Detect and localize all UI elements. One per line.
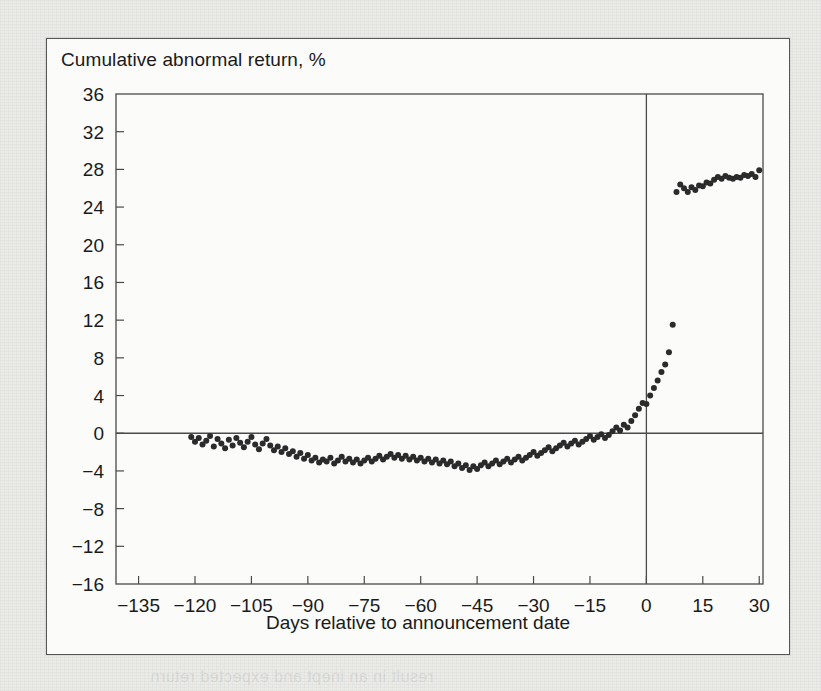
data-point — [666, 349, 672, 355]
data-point — [241, 444, 247, 450]
data-point — [260, 441, 266, 447]
data-point — [673, 189, 679, 195]
data-point — [617, 427, 623, 433]
data-point — [207, 433, 213, 439]
figure-panel: Cumulative abnormal return, % 3632282420… — [46, 38, 790, 655]
data-point — [256, 446, 262, 452]
data-point — [327, 455, 333, 461]
y-tick-label: 8 — [93, 348, 104, 369]
data-point — [692, 187, 698, 193]
data-point — [662, 361, 668, 367]
bleed-through-text-bottom: result in an inept and expected return — [150, 668, 433, 686]
x-axis-title: Days relative to announcement date — [47, 612, 789, 634]
data-point — [275, 443, 281, 449]
data-point — [263, 436, 269, 442]
data-point — [222, 445, 228, 451]
data-point — [203, 438, 209, 444]
data-point — [282, 445, 288, 451]
data-point — [230, 442, 236, 448]
data-point — [215, 436, 221, 442]
y-tick-label: 20 — [83, 235, 104, 256]
data-point — [312, 455, 318, 461]
data-point — [233, 435, 239, 441]
data-point — [237, 440, 243, 446]
data-point — [305, 452, 311, 458]
data-point — [245, 439, 251, 445]
data-point — [248, 434, 254, 440]
data-point — [226, 437, 232, 443]
data-point — [625, 425, 631, 431]
data-point — [756, 167, 762, 173]
data-point — [628, 418, 634, 424]
plot-svg: 36322824201612840−4−8−12−16−135−120−105−… — [47, 39, 791, 656]
data-point — [455, 460, 461, 466]
data-point — [267, 442, 273, 448]
data-point-group — [188, 167, 762, 473]
y-tick-label: 16 — [83, 272, 104, 293]
data-point — [651, 385, 657, 391]
y-tick-label: 4 — [93, 386, 104, 407]
data-point — [647, 393, 653, 399]
y-tick-label: 12 — [83, 310, 104, 331]
data-point — [339, 454, 345, 460]
data-point — [670, 322, 676, 328]
y-tick-label: 0 — [93, 423, 104, 444]
y-tick-label: 24 — [83, 197, 105, 218]
data-point — [636, 406, 642, 412]
data-point — [643, 401, 649, 407]
plot-frame — [116, 94, 763, 584]
y-tick-label: 28 — [83, 159, 104, 180]
y-tick-label: −12 — [72, 536, 104, 557]
data-point — [196, 435, 202, 441]
data-point — [658, 369, 664, 375]
y-tick-label: −16 — [72, 574, 104, 595]
data-point — [463, 462, 469, 468]
data-point — [448, 459, 454, 465]
data-point — [218, 441, 224, 447]
data-point — [655, 377, 661, 383]
data-point — [290, 448, 296, 454]
y-tick-label: 36 — [83, 84, 104, 105]
y-tick-label: −8 — [82, 499, 104, 520]
scatter-plot: 36322824201612840−4−8−12−16−135−120−105−… — [47, 39, 791, 656]
y-tick-label: 32 — [83, 122, 104, 143]
data-point — [297, 450, 303, 456]
data-point — [752, 174, 758, 180]
data-point — [188, 434, 194, 440]
data-point — [685, 189, 691, 195]
data-point — [252, 442, 258, 448]
y-tick-label: −4 — [82, 461, 104, 482]
data-point — [632, 412, 638, 418]
data-point — [211, 443, 217, 449]
